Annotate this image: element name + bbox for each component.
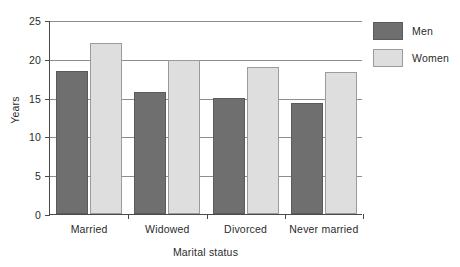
x-tick-4 (363, 214, 364, 219)
y-tick-label-0: 0 (35, 209, 41, 221)
x-tick-label-widowed: Widowed (145, 223, 190, 235)
women-swatch-icon (373, 49, 403, 67)
y-tick-label-10: 10 (29, 131, 41, 143)
legend-label-women: Women (412, 52, 449, 64)
plot-area: 0510152025 MarriedWidowedDivorcedNever m… (49, 21, 362, 215)
bar-women-married (90, 43, 122, 214)
bar-women-widowed (168, 60, 200, 214)
x-tick-label-never-married: Never married (289, 223, 358, 235)
bar-men-widowed (134, 92, 166, 214)
y-tick-label-25: 25 (29, 15, 41, 27)
y-axis-title: Years (9, 86, 21, 134)
bars-layer (50, 21, 362, 214)
x-tick-label-divorced: Divorced (224, 223, 267, 235)
men-swatch-icon (373, 22, 403, 40)
bar-men-divorced (213, 98, 245, 214)
x-tick-2 (207, 214, 208, 219)
y-tick-label-20: 20 (29, 54, 41, 66)
x-tick-label-married: Married (71, 223, 108, 235)
bar-chart-figure: Years 0510152025 MarriedWidowedDivorcedN… (0, 0, 460, 267)
y-tick-label-5: 5 (35, 170, 41, 182)
bar-women-divorced (247, 67, 279, 214)
bar-men-never-married (291, 103, 323, 214)
y-tick-0 (45, 215, 50, 216)
legend-item-men: Men (373, 22, 455, 40)
bar-men-married (56, 71, 88, 214)
chart-legend: Men Women (373, 22, 455, 76)
legend-label-men: Men (412, 25, 433, 37)
x-axis-title: Marital status (49, 246, 362, 258)
bar-women-never-married (325, 72, 357, 214)
y-tick-label-15: 15 (29, 93, 41, 105)
x-tick-1 (128, 214, 129, 219)
x-tick-3 (285, 214, 286, 219)
legend-item-women: Women (373, 49, 455, 67)
